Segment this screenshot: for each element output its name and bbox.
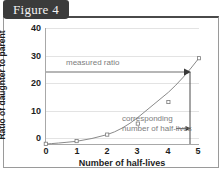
figure-caption-banner: Figure 4 <box>3 0 69 19</box>
annotation-corresponding-half-lives: corresponding number of half-lives <box>122 114 192 133</box>
data-point-5 <box>197 57 200 60</box>
data-point-2 <box>106 133 109 136</box>
chart-graphics <box>0 0 224 173</box>
data-point-0 <box>44 142 47 145</box>
annotation-measured-ratio: measured ratio <box>66 58 119 68</box>
data-point-1 <box>75 140 78 143</box>
data-point-4 <box>167 100 170 103</box>
annotation-corresponding-line1: corresponding <box>122 114 192 124</box>
annotation-corresponding-line2: number of half-lives <box>122 124 192 134</box>
figure-container: 40 30 20 10 0 0 1 2 3 4 5 Ratio of daugh… <box>0 0 224 173</box>
figure-caption-text: Figure 4 <box>13 3 59 16</box>
